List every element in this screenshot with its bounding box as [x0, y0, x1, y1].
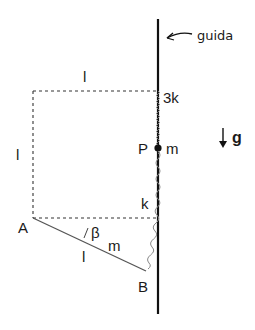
gravity-arrow-icon [219, 141, 227, 148]
lower-spring-label: k [141, 195, 149, 212]
top-length-label: l [83, 68, 86, 85]
point-P-dot [154, 144, 161, 151]
angle-beta-label: β [91, 224, 100, 241]
physics-diagram: guida l l 3k P m k g A B β m l [0, 0, 255, 330]
rod-mass-label: m [108, 237, 121, 254]
point-P-mass-label: m [166, 140, 179, 157]
left-length-label: l [16, 146, 19, 163]
angle-arc-marker [84, 228, 88, 238]
upper-spring-label: 3k [163, 89, 179, 106]
point-A-label: A [18, 219, 28, 236]
guide-label: guida [197, 28, 233, 43]
point-B-label: B [138, 278, 148, 295]
gravity-label: g [232, 129, 242, 146]
rod-length-label: l [82, 248, 85, 265]
point-P-label: P [138, 140, 148, 157]
diagram-canvas: guida l l 3k P m k g A B β m l [0, 0, 255, 330]
rod-AB [33, 218, 146, 271]
